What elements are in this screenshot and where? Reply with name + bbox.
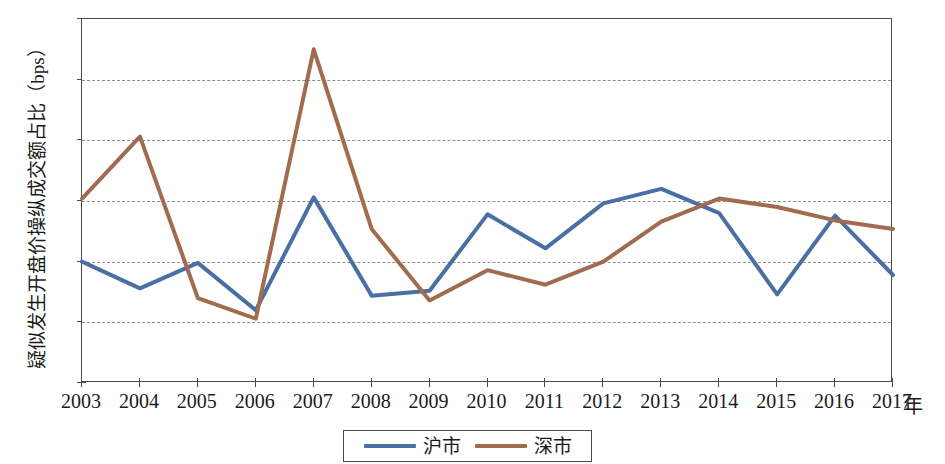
legend-item-shenzhen[interactable]: 深市 — [475, 437, 572, 456]
x-axis-tick-mark — [892, 378, 893, 387]
x-axis-tick-mark — [660, 378, 661, 387]
y-axis-title: 疑似发生开盘价操纵成交额占比（bps） — [22, 9, 49, 399]
x-axis-tick-mark — [718, 378, 719, 387]
x-axis-tick-mark — [313, 378, 314, 387]
line-chart-figure: 疑似发生开盘价操纵成交额占比（bps） 00.511.522.53 200320… — [0, 0, 945, 464]
legend-label-shenzhen: 深市 — [534, 437, 572, 456]
x-axis-tick-mark — [81, 378, 82, 387]
chart-legend: 沪市 深市 — [343, 430, 592, 462]
x-axis-tick-mark — [429, 378, 430, 387]
x-axis-tick-mark — [139, 378, 140, 387]
legend-swatch-shanghai — [364, 444, 416, 448]
x-axis-tick-mark — [487, 378, 488, 387]
x-axis-tick-mark — [776, 378, 777, 387]
series-layer — [82, 19, 893, 383]
plot-area — [81, 18, 892, 382]
x-axis-tick-mark — [602, 378, 603, 387]
x-axis-tick-mark — [197, 378, 198, 387]
x-axis-tick-mark — [255, 378, 256, 387]
x-axis-tick-mark — [544, 378, 545, 387]
series-line-shenzhen — [82, 49, 893, 318]
x-axis-tick-mark — [371, 378, 372, 387]
x-axis-tick-mark — [834, 378, 835, 387]
legend-swatch-shenzhen — [475, 444, 527, 448]
legend-item-shanghai[interactable]: 沪市 — [364, 437, 461, 456]
x-axis-unit-label: 年 — [903, 390, 923, 419]
legend-label-shanghai: 沪市 — [423, 437, 461, 456]
